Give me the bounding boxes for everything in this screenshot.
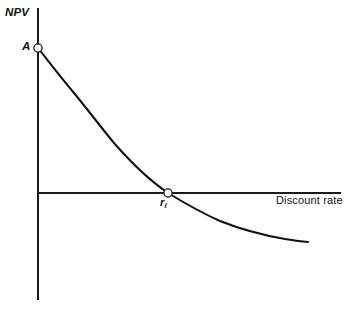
x-axis-label: Discount rate [276,195,343,206]
point-a-label: A [22,41,30,53]
point-a-marker-icon [34,44,42,52]
point-ri-marker-icon [164,189,172,197]
y-axis-label: NPV [5,7,29,19]
chart-canvas [0,0,349,315]
npv-discount-rate-figure: NPV A ri Discount rate [0,0,349,315]
npv-curve [38,48,308,242]
point-ri-label-subscript: i [164,201,166,210]
point-ri-label: ri [160,197,167,210]
